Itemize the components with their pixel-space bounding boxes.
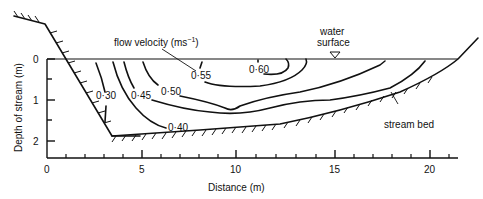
x-tick-15: 15 (329, 164, 341, 175)
x-axis-title: Distance (m) (208, 182, 265, 193)
flow-velocity-label: flow velocity (ms−1) (114, 36, 199, 48)
stream-cross-section-diagram: 0 1 2 0 5 10 15 20 Distance (m) Depth of… (0, 0, 483, 199)
stream-bed-label: stream bed (384, 119, 434, 130)
water-surface-label-1: water (319, 26, 345, 37)
contour-label-055: 0·55 (191, 70, 211, 81)
y-axis-title: Depth of stream (m) (13, 63, 24, 152)
water-surface-label-2: surface (317, 37, 350, 48)
x-tick-10: 10 (230, 164, 242, 175)
y-tick-0: 0 (33, 54, 39, 65)
left-bank (14, 11, 140, 136)
x-tick-20: 20 (424, 164, 436, 175)
y-tick-2: 2 (33, 136, 39, 147)
contour-label-040: 0·40 (168, 122, 188, 133)
flow-velocity-leader (162, 49, 196, 71)
contour-label-030: 0·30 (96, 90, 116, 101)
contour-label-045: 0·45 (131, 90, 151, 101)
x-tick-5: 5 (139, 164, 145, 175)
y-tick-1: 1 (33, 95, 39, 106)
contour-label-050: 0·50 (161, 86, 181, 97)
x-tick-0: 0 (44, 164, 50, 175)
contour-label-060: 0·60 (249, 64, 269, 75)
water-surface-marker-icon (330, 52, 340, 58)
